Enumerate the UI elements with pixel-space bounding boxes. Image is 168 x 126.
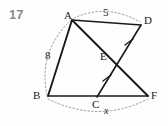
vertex-label-D: D <box>144 15 152 26</box>
vertex-label-A: A <box>64 10 72 21</box>
vertex-label-F: F <box>151 90 157 101</box>
measure-label-BF: x <box>104 106 108 116</box>
measure-label-AB: 8 <box>45 50 51 61</box>
measure-label-AD: 5 <box>103 7 109 18</box>
segment-AD <box>72 20 141 25</box>
segment-AB <box>48 20 72 96</box>
vertex-label-B: B <box>33 90 40 101</box>
figure-segments <box>48 20 148 97</box>
vertex-label-E: E <box>100 51 107 62</box>
geometry-figure: 17 A D E B C F 5 8 x <box>0 0 168 126</box>
vertex-label-C: C <box>92 99 99 110</box>
geometry-canvas <box>0 0 168 126</box>
